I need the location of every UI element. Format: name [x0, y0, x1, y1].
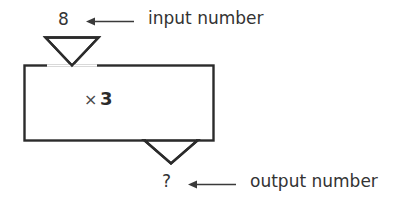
input-funnel-triangle	[46, 38, 99, 66]
output-number-caption: output number	[250, 173, 378, 190]
multiplication-sign-icon: ×	[84, 92, 97, 108]
machine-box-outline	[25, 66, 214, 141]
output-arrow-left-icon	[188, 181, 236, 189]
function-machine-figure: 8 input number × 3 ? output number	[0, 0, 412, 207]
output-funnel-triangle	[145, 141, 198, 164]
input-arrow-left-icon	[86, 18, 134, 26]
input-number-label: 8	[58, 11, 69, 28]
output-number-label: ?	[162, 173, 171, 190]
machine-operation-value: 3	[100, 90, 113, 108]
input-number-caption: input number	[148, 10, 263, 27]
